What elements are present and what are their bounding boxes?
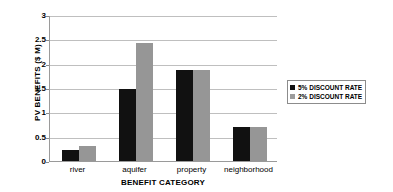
bar-group bbox=[221, 16, 278, 161]
legend-item: 2% DISCOUNT RATE bbox=[290, 92, 362, 101]
x-axis-title: BENEFIT CATEGORY bbox=[49, 178, 277, 187]
x-tick-label: aquifer bbox=[106, 165, 163, 174]
y-tick-label: 3 bbox=[6, 12, 46, 20]
gray-square-icon bbox=[290, 94, 295, 99]
legend-item: 5% DISCOUNT RATE bbox=[290, 83, 362, 92]
bar-group bbox=[107, 16, 164, 161]
bar bbox=[79, 146, 96, 161]
x-tick-label: neighborhood bbox=[220, 165, 277, 174]
y-tick-label: 1 bbox=[6, 109, 46, 117]
y-tick-mark bbox=[46, 162, 49, 163]
y-tick-label: 0.5 bbox=[6, 134, 46, 142]
bar bbox=[136, 43, 153, 161]
bar-group bbox=[50, 16, 107, 161]
bar bbox=[176, 70, 193, 161]
plot-area bbox=[49, 16, 277, 162]
legend: 5% DISCOUNT RATE2% DISCOUNT RATE bbox=[287, 80, 366, 104]
bar bbox=[193, 70, 210, 161]
y-tick-label: 1.5 bbox=[6, 85, 46, 93]
bar bbox=[119, 89, 136, 162]
x-tick-label: river bbox=[49, 165, 106, 174]
bar-chart: PV BENEFITS ($ M) 00.511.522.53 riveraqu… bbox=[0, 0, 393, 192]
bar bbox=[233, 127, 250, 161]
y-axis-title: PV BENEFITS ($ M) bbox=[33, 13, 42, 153]
legend-label: 5% DISCOUNT RATE bbox=[298, 83, 362, 92]
bar bbox=[62, 150, 79, 161]
x-tick-label: property bbox=[163, 165, 220, 174]
black-square-icon bbox=[290, 85, 295, 90]
bar-group bbox=[164, 16, 221, 161]
y-tick-label: 0 bbox=[6, 158, 46, 166]
bar bbox=[250, 127, 267, 161]
legend-label: 2% DISCOUNT RATE bbox=[298, 92, 362, 101]
y-tick-label: 2 bbox=[6, 61, 46, 69]
y-tick-label: 2.5 bbox=[6, 36, 46, 44]
